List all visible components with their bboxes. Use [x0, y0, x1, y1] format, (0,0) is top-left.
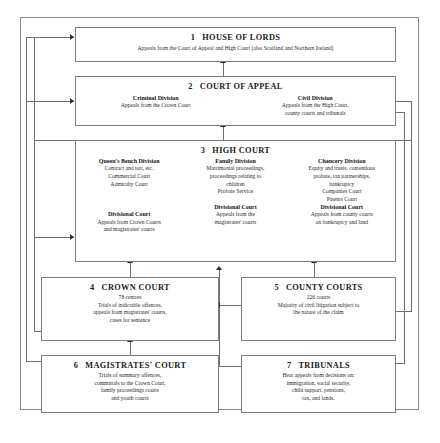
- box-house-of-lords[interactable]: 1HOUSE OF LORDS Appeals from the Court o…: [75, 27, 396, 62]
- connector-into-house-of-lords: [34, 37, 74, 38]
- box-tribunals[interactable]: 7TRIBUNALS Hear appeals from decisions o…: [241, 355, 396, 413]
- high-court-number: 3: [201, 146, 213, 155]
- connector-county-to-divisional: [314, 262, 315, 277]
- family-division-line-1: Matrimonial proceedings,: [184, 165, 286, 173]
- box-magistrates-court[interactable]: 6MAGISTRATES' COURT Trials of summary of…: [41, 355, 219, 413]
- box-county-courts[interactable]: 5COUNTY COURTS 226 courts Majority of ci…: [241, 277, 396, 341]
- high-court-name: HIGH COURT: [212, 146, 270, 155]
- criminal-division-column: Criminal Division Appeals from the Crown…: [76, 94, 236, 118]
- county-courts-line-3: the nature of the claim: [242, 309, 395, 317]
- connector-into-divisional-court-qb: [34, 237, 74, 238]
- connector-into-high-court: [34, 140, 75, 141]
- connector-high-court-right-stub: [396, 140, 411, 141]
- chancery-division-line-3: bankruptcy: [291, 181, 393, 189]
- tribunals-line-3: child support, pensions,: [242, 387, 395, 395]
- crown-court-line-2: Trials of indictable offences,: [42, 302, 218, 310]
- family-division-line-3: children: [184, 181, 286, 189]
- high-court-title: 3HIGH COURT: [76, 145, 395, 156]
- rail-left-outer: [26, 37, 27, 361]
- house-of-lords-name: HOUSE OF LORDS: [202, 33, 280, 42]
- crown-court-line-4: cases for sentence: [42, 317, 218, 325]
- house-of-lords-title: 1HOUSE OF LORDS: [76, 32, 395, 43]
- box-crown-court[interactable]: 4CROWN COURT 78 centres Trials of indict…: [41, 277, 219, 341]
- chancery-division-line-2: probate, tax partnerships,: [291, 173, 393, 181]
- crown-court-number: 4: [90, 283, 102, 292]
- arrowhead-into-divisional-court-qb: [70, 234, 74, 240]
- queens-bench-line-1: Contract and tort, etc.: [78, 165, 180, 173]
- chancery-division-column: Chancery Division Equity and trusts, con…: [289, 157, 395, 226]
- crown-court-line-1: 78 centres: [42, 294, 218, 302]
- family-division-line-4: Probate Service: [184, 188, 286, 196]
- queens-bench-divisional-line-1: Appeals from Crown Courts: [78, 219, 180, 227]
- queens-bench-line-3: Admiralty Court: [78, 181, 180, 189]
- arrowhead-middle-to-family-divisional: [216, 266, 222, 270]
- tribunals-title: 7TRIBUNALS: [242, 360, 395, 371]
- box-court-of-appeal[interactable]: 2COURT OF APPEAL Criminal Division Appea…: [75, 76, 396, 126]
- tribunals-line-2: immigration, social security,: [242, 380, 395, 388]
- rail-right-county: [411, 101, 412, 311]
- house-of-lords-line-1: Appeals from the Court of Appeal and Hig…: [76, 45, 395, 53]
- crown-court-title: 4CROWN COURT: [42, 282, 218, 293]
- house-of-lords-number: 1: [191, 33, 203, 42]
- magistrates-court-line-1: Trials of summary offences,: [42, 372, 218, 380]
- county-courts-line-2: Majority of civil litigation subject to: [242, 302, 395, 310]
- queens-bench-line-2: Commercial Court: [78, 173, 180, 181]
- magistrates-court-number: 6: [74, 361, 86, 370]
- family-divisional-heading: Divisional Court: [184, 203, 286, 211]
- magistrates-court-line-4: and youth courts: [42, 395, 218, 403]
- court-of-appeal-number: 2: [188, 82, 200, 91]
- chancery-divisional-heading: Divisional Court: [291, 203, 393, 211]
- county-courts-line-1: 226 courts: [242, 294, 395, 302]
- chancery-divisional-line-1: Appeals from county courts: [291, 211, 393, 219]
- court-hierarchy-diagram: 1HOUSE OF LORDS Appeals from the Court o…: [0, 0, 440, 443]
- arrowhead-into-criminal-division: [70, 98, 74, 104]
- civil-division-line-2: county courts and tribunals: [238, 110, 394, 118]
- tribunals-line-4: tax, and lands.: [242, 395, 395, 403]
- court-of-appeal-title: 2COURT OF APPEAL: [76, 81, 395, 92]
- connector-coa-to-hol: [223, 62, 224, 76]
- connector-crown-to-divisional: [130, 262, 131, 277]
- connector-into-civil-division-county: [396, 101, 412, 102]
- magistrates-court-line-2: committals to the Crown Court,: [42, 380, 218, 388]
- civil-division-column: Civil Division Appeals from the High Cou…: [236, 94, 396, 118]
- box-high-court[interactable]: 3HIGH COURT Queen's Bench Division Contr…: [75, 140, 396, 262]
- chancery-division-line-4: Companies Court: [291, 188, 393, 196]
- connector-magistrates-to-crown: [130, 341, 131, 355]
- county-courts-title: 5COUNTY COURTS: [242, 282, 395, 293]
- court-of-appeal-name: COURT OF APPEAL: [200, 82, 283, 91]
- family-divisional-line-1: Appeals from the: [184, 211, 286, 219]
- family-division-column: Family Division Matrimonial proceedings,…: [182, 157, 288, 226]
- connector-into-criminal-division: [26, 101, 74, 102]
- family-division-heading: Family Division: [184, 157, 286, 165]
- family-divisional-line-2: magistrates' courts: [184, 219, 286, 227]
- chancery-divisional-line-2: on bankruptcy and land: [291, 219, 393, 227]
- criminal-division-line-1: Appeals from the Crown Court: [78, 102, 234, 110]
- tribunals-number: 7: [287, 361, 299, 370]
- rail-left-inner: [34, 37, 35, 331]
- connector-hc-to-coa: [223, 126, 224, 140]
- magistrates-court-name: MAGISTRATES' COURT: [85, 361, 186, 370]
- crown-court-name: CROWN COURT: [102, 283, 170, 292]
- chancery-division-heading: Chancery Division: [291, 157, 393, 165]
- rail-middle: [219, 270, 220, 366]
- magistrates-court-line-3: family proceedings courts: [42, 387, 218, 395]
- crown-court-line-3: appeals from magistrates' courts,: [42, 309, 218, 317]
- civil-division-heading: Civil Division: [238, 94, 394, 102]
- queens-bench-divisional-heading: Divisional Court: [78, 210, 180, 218]
- connector-into-civil-division-tribunals: [396, 112, 405, 113]
- family-division-line-2: proceedings relating to: [184, 173, 286, 181]
- county-courts-number: 5: [274, 283, 286, 292]
- magistrates-court-title: 6MAGISTRATES' COURT: [42, 360, 218, 371]
- queens-bench-division-column: Queen's Bench Division Contract and tort…: [76, 157, 182, 234]
- chancery-division-line-1: Equity and trusts, contentious: [291, 165, 393, 173]
- criminal-division-heading: Criminal Division: [78, 94, 234, 102]
- arrowhead-into-house-of-lords: [70, 34, 74, 40]
- queens-bench-divisional-line-2: and magistrates' courts: [78, 226, 180, 234]
- civil-division-line-1: Appeals from the High Court,: [238, 102, 394, 110]
- tribunals-line-1: Hear appeals from decisions on:: [242, 372, 395, 380]
- county-courts-name: COUNTY COURTS: [286, 283, 363, 292]
- rail-right-tribunals: [404, 112, 405, 363]
- queens-bench-heading: Queen's Bench Division: [78, 157, 180, 165]
- tribunals-name: TRIBUNALS: [298, 361, 350, 370]
